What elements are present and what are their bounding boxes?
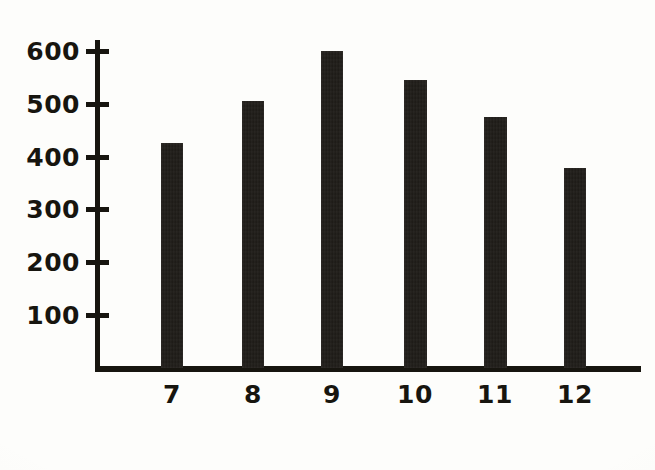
y-tick-label-600: 600 [0, 37, 80, 66]
bar-category-9 [321, 51, 343, 368]
y-tick-mark-400 [86, 155, 109, 160]
y-tick-label-300: 300 [0, 195, 80, 224]
plot-area: 600 500 400 300 200 100 7 8 9 10 11 12 [0, 0, 655, 470]
y-tick-mark-600 [86, 49, 109, 54]
y-tick-label-600-row: 600 [0, 37, 80, 65]
y-tick-label-300-row: 300 [0, 195, 80, 223]
y-tick-label-400-row: 400 [0, 143, 80, 171]
bar-category-7 [161, 143, 183, 368]
y-tick-label-500-row: 500 [0, 90, 80, 118]
y-tick-label-200: 200 [0, 248, 80, 277]
y-tick-mark-500 [86, 102, 109, 107]
x-tick-label-11: 11 [460, 380, 530, 409]
bar-category-12 [564, 168, 586, 368]
y-tick-label-500: 500 [0, 90, 80, 119]
bar-category-10 [404, 80, 427, 368]
bar-category-8 [242, 101, 264, 368]
y-tick-mark-300 [86, 207, 109, 212]
y-tick-label-100-row: 100 [0, 301, 80, 329]
x-tick-label-10: 10 [380, 380, 450, 409]
x-axis-line-extension [590, 367, 641, 371]
x-tick-label-9: 9 [297, 380, 367, 409]
bar-category-11 [484, 117, 507, 368]
y-tick-mark-100 [86, 313, 109, 318]
bar-chart-figure: 600 500 400 300 200 100 7 8 9 10 11 12 [0, 0, 655, 470]
x-tick-label-12: 12 [540, 380, 610, 409]
x-tick-label-7: 7 [137, 380, 207, 409]
y-tick-mark-200 [86, 260, 109, 265]
y-tick-label-200-row: 200 [0, 248, 80, 276]
y-tick-label-100: 100 [0, 301, 80, 330]
y-axis-line [95, 40, 100, 372]
y-tick-label-400: 400 [0, 143, 80, 172]
x-tick-label-8: 8 [218, 380, 288, 409]
